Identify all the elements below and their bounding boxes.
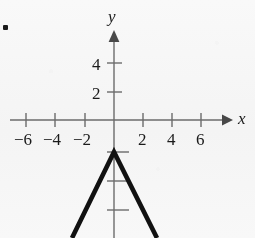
x-tick-label-4: 4: [167, 131, 176, 148]
x-tick-label-2: 2: [138, 131, 147, 148]
y-tick-label-2: 2: [92, 85, 101, 102]
graph-figure: [0, 0, 255, 238]
x-tick-label-6: 6: [196, 131, 205, 148]
y-axis-label: y: [108, 8, 116, 25]
x-tick-label-neg6: −6: [14, 131, 32, 148]
item-bullet-marker: [3, 25, 8, 30]
y-axis-arrow-icon: [109, 30, 120, 42]
x-tick-label-neg2: −2: [73, 131, 91, 148]
x-axis-arrow-icon: [222, 115, 233, 126]
x-tick-label-neg4: −4: [43, 131, 61, 148]
x-axis-label: x: [238, 110, 246, 127]
y-tick-label-4: 4: [92, 56, 101, 73]
y-axis-ticks: [107, 63, 129, 210]
